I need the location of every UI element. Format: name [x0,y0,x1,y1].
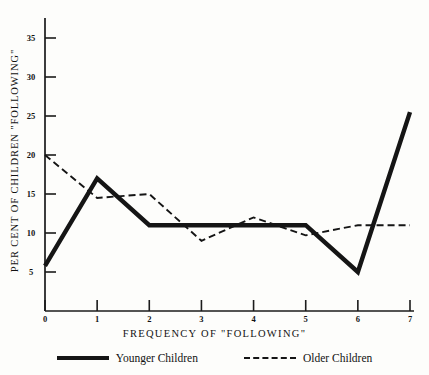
series-line-solid [45,112,410,272]
legend-item-older: Older Children [244,352,372,364]
y-tick-label: 20 [27,150,36,160]
x-tick-label: 1 [95,314,99,324]
plot-area: 510152025303501234567 [0,0,429,330]
x-tick-label: 4 [251,314,256,324]
y-tick-label: 10 [27,228,36,238]
y-axis-title-wrapper: PER CENT OF CHILDREN "FOLLOWING" [2,0,28,320]
x-tick-label: 6 [356,314,360,324]
series-line-dashed [45,155,410,241]
y-tick-label: 15 [27,189,36,199]
chart-figure: PER CENT OF CHILDREN "FOLLOWING" 5101520… [0,0,429,375]
y-tick-label: 25 [27,111,36,121]
legend-swatch-dashed-line [244,357,296,359]
x-tick-label: 0 [43,314,47,324]
x-axis-title: FREQUENCY OF "FOLLOWING" [0,328,429,339]
y-tick-label: 35 [27,33,36,43]
x-tick-label: 7 [408,314,413,324]
y-tick-label: 30 [27,72,36,82]
x-tick-label: 5 [304,314,308,324]
x-tick-label: 2 [147,314,151,324]
legend-label-older: Older Children [303,352,372,364]
x-tick-label: 3 [199,314,203,324]
legend-swatch-solid-line [57,356,109,360]
y-tick-label: 5 [29,267,33,277]
y-axis-title: PER CENT OF CHILDREN "FOLLOWING" [10,48,21,271]
chart-legend: Younger Children Older Children [0,352,429,364]
legend-item-younger: Younger Children [57,352,198,364]
legend-label-younger: Younger Children [116,352,198,364]
